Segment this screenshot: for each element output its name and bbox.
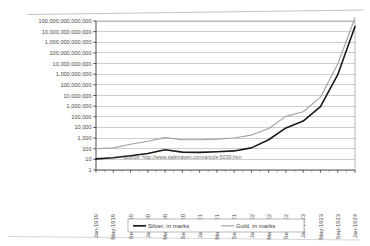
y-tick-label: 10,000,000 [64,93,92,99]
y-tick-label: 10,000,000,000,000 [42,29,92,35]
hyperinflation-log-chart: 100,000,000,000,00010,000,000,000,0001,0… [0,0,370,246]
y-tick-label: 1,000,000,000,000 [45,39,92,45]
y-tick-label: 1,000,000 [67,103,92,109]
y-tick-label: 1,000,000,000 [56,71,92,77]
y-tick-label: 100,000,000,000,000 [39,18,92,24]
y-tick-label: 10,000,000,000 [53,61,92,67]
x-tick-label: Jan-1924 [352,213,358,238]
y-tick-label: 1,000 [78,135,92,141]
y-tick-label: 10 [85,156,91,162]
legend-label: Gold, in marks [236,222,275,229]
source-annotation-text: Source: http://www.safehaven.com/article… [123,154,242,160]
y-tick-label: 100 [82,146,91,152]
source-annotation: Source: http://www.safehaven.com/article… [123,154,242,160]
x-tick-label: May-1923 [318,214,324,240]
x-tick-label: Jan-1919 [93,214,99,238]
legend-label: Silver, in marks [148,222,189,229]
y-tick-label: 100,000,000,000 [50,50,92,56]
y-axis-tick-labels: 100,000,000,000,00010,000,000,000,0001,0… [39,18,92,173]
y-tick-label: 10,000 [74,124,91,130]
chart-screenshot: 100,000,000,000,00010,000,000,000,0001,0… [0,0,370,246]
y-tick-label: 1 [88,167,91,173]
x-tick-label: May-1919 [110,214,116,240]
y-tick-label: 100,000,000 [60,82,91,88]
chart-legend: Silver, in marksGold, in marks [128,219,304,232]
x-tick-label: Sep-1923 [335,214,341,239]
y-tick-label: 100,000 [71,114,91,120]
